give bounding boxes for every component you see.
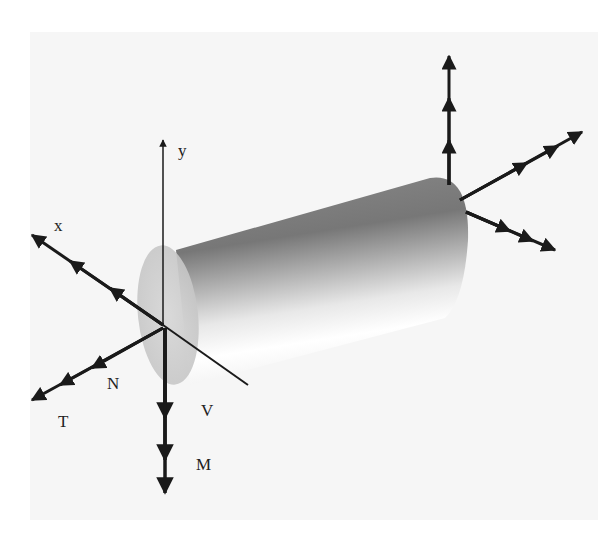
label-torque: T bbox=[58, 412, 69, 431]
beam-diagram: y x N T V M bbox=[0, 0, 615, 550]
label-x-axis: x bbox=[54, 216, 63, 235]
cylinder-body bbox=[176, 178, 468, 385]
label-moment: M bbox=[196, 455, 211, 474]
label-normal-force: N bbox=[107, 374, 119, 393]
right-axes bbox=[449, 56, 582, 250]
label-y-axis: y bbox=[178, 141, 187, 160]
cylinder bbox=[131, 178, 468, 388]
label-shear-force: V bbox=[201, 401, 214, 420]
